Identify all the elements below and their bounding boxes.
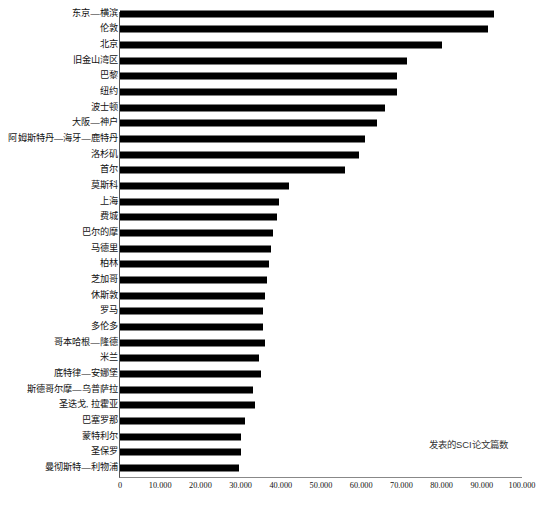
bar-row: 洛杉矶 — [0, 147, 552, 163]
bar — [120, 402, 255, 409]
bar — [120, 151, 359, 158]
x-tick-label: 20.000 — [189, 482, 212, 490]
category-label: 旧金山湾区 — [73, 56, 119, 65]
bar-track — [120, 198, 522, 205]
bar — [120, 120, 377, 127]
bar-row: 北京 — [0, 37, 552, 53]
bar-row: 曼彻斯特—利物浦 — [0, 460, 552, 476]
bar — [120, 198, 279, 205]
bar-track — [120, 339, 522, 346]
bar-track — [120, 464, 522, 471]
category-label: 圣迭戈, 拉霍亚 — [59, 401, 118, 410]
bar-row: 东京—横滨 — [0, 6, 552, 22]
category-label: 北京 — [100, 41, 118, 50]
category-label: 底特律—安娜堡 — [54, 369, 118, 378]
category-label: 斯德哥尔摩—乌普萨拉 — [27, 385, 118, 394]
bar-row: 哥本哈根—隆德 — [0, 335, 552, 351]
bar-track — [120, 402, 522, 409]
bar — [120, 339, 265, 346]
bar-track — [120, 42, 522, 49]
bar-track — [120, 57, 522, 64]
bar-row: 米兰 — [0, 350, 552, 366]
bar-track — [120, 214, 522, 221]
bar-row: 上海 — [0, 194, 552, 210]
bar-row: 纽约 — [0, 84, 552, 100]
bar-row: 圣迭戈, 拉霍亚 — [0, 397, 552, 413]
category-label: 洛杉矶 — [91, 150, 118, 159]
bar-row: 首尔 — [0, 163, 552, 179]
bar — [120, 136, 365, 143]
bar-row: 伦敦 — [0, 22, 552, 38]
category-label: 大阪—神户 — [72, 119, 118, 128]
category-label: 费城 — [100, 213, 118, 222]
category-label: 多伦多 — [91, 322, 118, 331]
category-label: 哥本哈根—隆德 — [54, 338, 118, 347]
bar-row: 旧金山湾区 — [0, 53, 552, 69]
bar-row: 阿姆斯特丹—海牙—鹿特丹 — [0, 131, 552, 147]
bar — [120, 10, 494, 17]
bar-track — [120, 370, 522, 377]
x-tick-label: 80.000 — [430, 482, 453, 490]
bar-track — [120, 136, 522, 143]
x-tick-label: 100.000 — [509, 482, 536, 490]
bar — [120, 214, 277, 221]
category-label: 米兰 — [100, 354, 118, 363]
bar — [120, 292, 265, 299]
bar-row: 波士顿 — [0, 100, 552, 116]
bar-row: 底特律—安娜堡 — [0, 366, 552, 382]
bar — [120, 417, 245, 424]
x-tick-label: 60.000 — [350, 482, 373, 490]
bar-row: 巴尔的摩 — [0, 225, 552, 241]
category-label: 东京—横滨 — [72, 9, 118, 18]
x-axis-label: 发表的SCI论文篇数 — [429, 440, 508, 449]
x-axis: 010.00020.00030.00040.00050.00060.00070.… — [0, 478, 552, 498]
bar — [120, 26, 488, 33]
bar-row: 柏林 — [0, 257, 552, 273]
sci-papers-bar-chart: 东京—横滨伦敦北京旧金山湾区巴黎纽约波士顿大阪—神户阿姆斯特丹—海牙—鹿特丹洛杉… — [0, 0, 552, 505]
bar-track — [120, 89, 522, 96]
category-label: 休斯敦 — [91, 291, 118, 300]
bar — [120, 104, 385, 111]
bar-track — [120, 120, 522, 127]
bar-track — [120, 323, 522, 330]
bar — [120, 308, 263, 315]
bar-row: 多伦多 — [0, 319, 552, 335]
bar-track — [120, 245, 522, 252]
bar — [120, 245, 271, 252]
bar-track — [120, 355, 522, 362]
bar-row: 莫斯科 — [0, 178, 552, 194]
bar-track — [120, 276, 522, 283]
bar-track — [120, 167, 522, 174]
bar-track — [120, 417, 522, 424]
bar — [120, 230, 273, 237]
bar — [120, 464, 239, 471]
bar — [120, 167, 345, 174]
bar-row: 芝加哥 — [0, 272, 552, 288]
x-tick-label: 10.000 — [149, 482, 172, 490]
bar-track — [120, 26, 522, 33]
category-label: 阿姆斯特丹—海牙—鹿特丹 — [8, 134, 118, 143]
bar — [120, 370, 261, 377]
x-tick-label: 50.000 — [310, 482, 333, 490]
category-label: 马德里 — [91, 244, 118, 253]
bar — [120, 386, 253, 393]
category-label: 芝加哥 — [91, 275, 118, 284]
category-label: 柏林 — [100, 260, 118, 269]
x-tick-label: 0 — [118, 482, 122, 490]
bar-track — [120, 151, 522, 158]
bar-track — [120, 308, 522, 315]
category-label: 巴塞罗那 — [82, 416, 118, 425]
bar — [120, 449, 241, 456]
bar-row: 休斯敦 — [0, 288, 552, 304]
category-label: 首尔 — [100, 166, 118, 175]
category-label: 伦敦 — [100, 25, 118, 34]
x-tick-label: 40.000 — [269, 482, 292, 490]
bar — [120, 57, 407, 64]
bar-row: 罗马 — [0, 303, 552, 319]
bar-row: 大阪—神户 — [0, 116, 552, 132]
bar-row: 斯德哥尔摩—乌普萨拉 — [0, 382, 552, 398]
category-label: 巴尔的摩 — [82, 228, 118, 237]
category-label: 罗马 — [100, 307, 118, 316]
bar-row: 费城 — [0, 210, 552, 226]
x-tick-label: 30.000 — [229, 482, 252, 490]
